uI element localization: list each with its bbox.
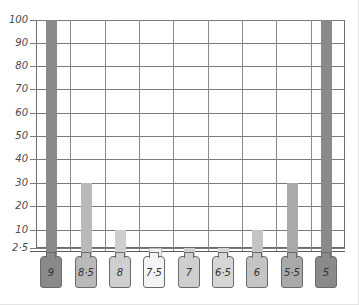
gridline-vertical — [139, 20, 140, 252]
y-tick-label: 80 — [2, 61, 28, 71]
bottle-icon: 7 — [178, 256, 200, 288]
bottle-icon: 5·5 — [281, 256, 303, 288]
y-tick-label: 2·5 — [2, 243, 28, 253]
gridline-vertical — [242, 20, 243, 252]
gridline-horizontal — [30, 20, 345, 21]
x-category-label: 6·5 — [213, 267, 233, 278]
gridline-horizontal — [30, 113, 345, 114]
bottle-neck — [321, 252, 331, 258]
gridline-vertical — [105, 20, 106, 252]
x-category-label: 6 — [247, 267, 267, 278]
gridline-horizontal — [30, 89, 345, 90]
gridline-vertical — [311, 20, 312, 252]
y-tick-label: 70 — [2, 84, 28, 94]
bottle-neck — [252, 252, 262, 258]
gridline-vertical — [70, 20, 71, 252]
bottle-neck — [149, 252, 159, 258]
y-tick-label: 90 — [2, 38, 28, 48]
y-tick-label: 10 — [2, 225, 28, 235]
gridline-horizontal — [30, 43, 345, 44]
bar-ph-5 — [321, 20, 332, 256]
gridline-horizontal — [30, 159, 345, 160]
gridline-vertical — [173, 20, 174, 252]
gridline-vertical — [208, 20, 209, 252]
y-tick-label: 100 — [2, 15, 28, 25]
bar-ph-5.5 — [287, 183, 298, 256]
bottle-neck — [287, 252, 297, 258]
bar-ph-8.5 — [81, 183, 92, 256]
bottle-icon: 9 — [40, 256, 62, 288]
x-category-label: 5·5 — [282, 267, 302, 278]
x-category-label: 7·5 — [144, 267, 164, 278]
bottle-neck — [46, 252, 56, 258]
bottle-icon: 6·5 — [212, 256, 234, 288]
bottle-neck — [115, 252, 125, 258]
bottle-icon: 6 — [246, 256, 268, 288]
bottle-icon: 8 — [109, 256, 131, 288]
gridline-horizontal — [30, 66, 345, 67]
x-category-label: 8 — [110, 267, 130, 278]
bottle-neck — [218, 252, 228, 258]
bottle-icon: 5 — [315, 256, 337, 288]
x-category-label: 9 — [41, 267, 61, 278]
bottle-neck — [81, 252, 91, 258]
bottle-icon: 8·5 — [75, 256, 97, 288]
bottle-icon: 7·5 — [143, 256, 165, 288]
gridline-horizontal — [30, 136, 345, 137]
bar-ph-9 — [46, 20, 57, 256]
y-tick-label: 50 — [2, 131, 28, 141]
x-category-label: 5 — [316, 267, 336, 278]
y-tick-label: 30 — [2, 178, 28, 188]
gridline-vertical — [276, 20, 277, 252]
x-category-label: 7 — [179, 267, 199, 278]
y-tick-label: 20 — [2, 201, 28, 211]
y-tick-label: 40 — [2, 154, 28, 164]
x-category-label: 8·5 — [76, 267, 96, 278]
bottle-neck — [184, 252, 194, 258]
y-tick-label: 60 — [2, 108, 28, 118]
